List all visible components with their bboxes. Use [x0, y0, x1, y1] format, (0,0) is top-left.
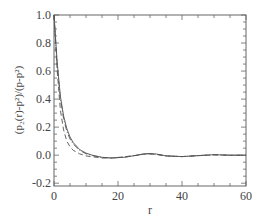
- axis-ticks: [54, 15, 246, 186]
- y-tick-label: 0.4: [36, 92, 51, 106]
- y-axis-label: (p₂(r)-p²)/(p-p²): [12, 65, 25, 134]
- x-axis-label: r: [148, 203, 152, 217]
- plot-frame: [54, 15, 246, 186]
- series-dashed: [54, 15, 246, 158]
- series-solid: [54, 15, 246, 158]
- line-chart: 0204060-0.20.00.20.40.60.81.0 r (p₂(r)-p…: [0, 0, 261, 222]
- y-tick-label: 0.8: [36, 36, 51, 50]
- y-tick-label: 0.0: [36, 148, 51, 162]
- x-tick-label: 40: [176, 189, 188, 203]
- y-tick-label: -0.2: [32, 176, 51, 190]
- series-dash-dot: [54, 15, 246, 158]
- x-tick-label: 60: [240, 189, 252, 203]
- y-tick-label: 0.6: [36, 64, 51, 78]
- data-series: [54, 15, 246, 158]
- y-tick-label: 0.2: [36, 120, 51, 134]
- y-tick-label: 1.0: [36, 8, 51, 22]
- x-tick-label: 20: [112, 189, 124, 203]
- tick-labels: 0204060-0.20.00.20.40.60.81.0: [32, 8, 252, 203]
- plot-border: [54, 15, 246, 186]
- x-tick-label: 0: [51, 189, 57, 203]
